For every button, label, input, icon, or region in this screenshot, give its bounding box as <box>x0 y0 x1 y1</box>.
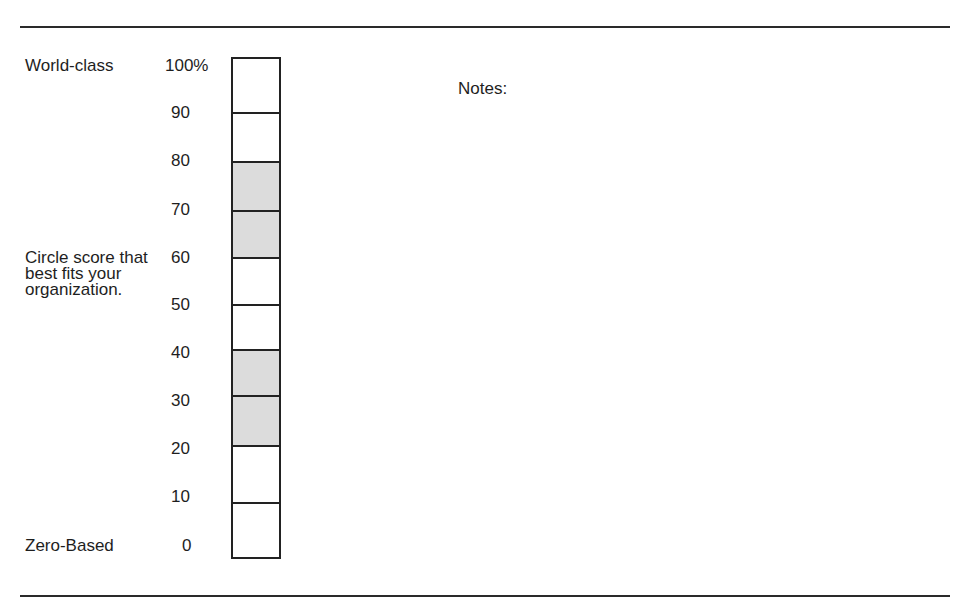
tick-90: 90 <box>171 104 223 122</box>
score-cell-60-70[interactable] <box>233 212 279 259</box>
score-cell-0-10[interactable] <box>233 504 279 557</box>
top-divider <box>20 26 950 28</box>
tick-50: 50 <box>171 296 223 314</box>
tick-0: 0 <box>182 537 234 555</box>
score-cell-40-50[interactable] <box>233 306 279 351</box>
score-scale[interactable] <box>231 57 281 559</box>
zero-based-label: Zero-Based <box>25 537 114 555</box>
score-cell-90-100[interactable] <box>233 59 279 114</box>
bottom-divider <box>20 595 950 597</box>
score-cell-20-30[interactable] <box>233 397 279 447</box>
world-class-label: World-class <box>25 57 113 75</box>
notes-label: Notes: <box>458 80 507 98</box>
tick-10: 10 <box>171 488 223 506</box>
tick-30: 30 <box>171 392 223 410</box>
tick-100: 100% <box>165 57 217 75</box>
tick-70: 70 <box>171 201 223 219</box>
tick-40: 40 <box>171 344 223 362</box>
tick-80: 80 <box>171 152 223 170</box>
instruction-text: Circle score that best fits your organiz… <box>25 250 155 298</box>
score-cell-70-80[interactable] <box>233 163 279 212</box>
score-cell-50-60[interactable] <box>233 259 279 306</box>
score-cell-10-20[interactable] <box>233 447 279 504</box>
score-cell-30-40[interactable] <box>233 351 279 397</box>
tick-20: 20 <box>171 440 223 458</box>
score-cell-80-90[interactable] <box>233 114 279 163</box>
tick-60: 60 <box>171 249 223 267</box>
